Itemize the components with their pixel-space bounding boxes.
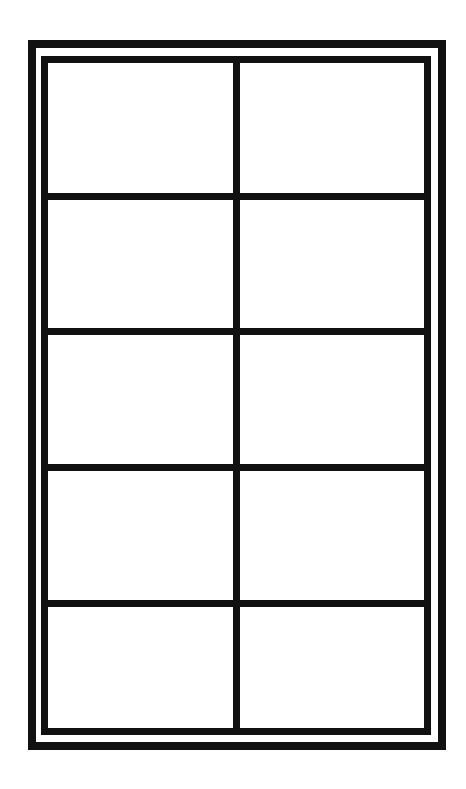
pane-r3-c1 (48, 335, 233, 464)
pane-r5-c1 (48, 607, 233, 728)
pane-r1-c1 (48, 63, 233, 193)
pane-r3-c2 (240, 335, 424, 464)
horizontal-divider-1 (41, 193, 431, 200)
pane-r2-c2 (240, 200, 424, 328)
pane-r5-c2 (240, 607, 424, 728)
pane-r4-c1 (48, 471, 233, 600)
pane-r2-c1 (48, 200, 233, 328)
horizontal-divider-3 (41, 464, 431, 471)
horizontal-divider-4 (41, 600, 431, 607)
pane-r1-c2 (240, 63, 424, 193)
horizontal-divider-2 (41, 328, 431, 335)
pane-r4-c2 (240, 471, 424, 600)
vertical-divider (233, 56, 240, 735)
